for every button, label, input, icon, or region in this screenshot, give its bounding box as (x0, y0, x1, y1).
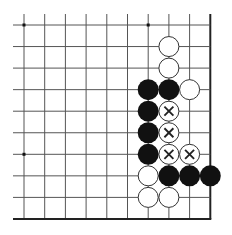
black-stone (138, 79, 159, 100)
star-point (23, 153, 26, 156)
white-stone (159, 37, 179, 57)
black-stone (158, 79, 179, 100)
white-stone (180, 80, 200, 100)
go-board-diagram (0, 0, 232, 235)
star-point (147, 24, 150, 27)
black-stone (200, 165, 221, 186)
black-stone (138, 144, 159, 165)
white-stone (138, 187, 158, 207)
black-stone (138, 101, 159, 122)
black-stone (138, 122, 159, 143)
white-stone (159, 187, 179, 207)
star-point (23, 24, 26, 27)
white-stone (159, 58, 179, 78)
black-stone (179, 165, 200, 186)
black-stone (158, 165, 179, 186)
white-stone (138, 166, 158, 186)
